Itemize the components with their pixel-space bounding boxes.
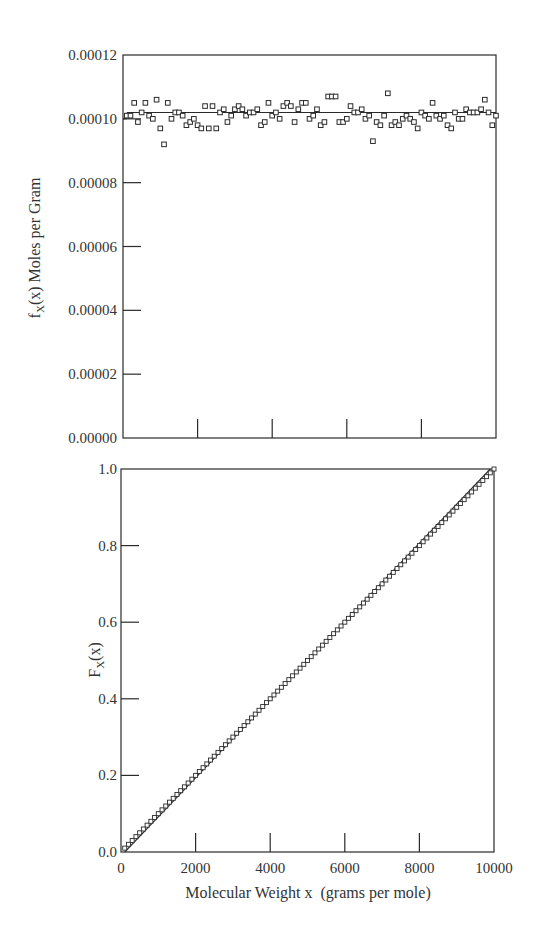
- data-point: [412, 120, 417, 125]
- data-point: [143, 101, 148, 106]
- data-point: [162, 142, 167, 147]
- data-point: [378, 123, 383, 128]
- data-point: [386, 91, 391, 96]
- data-point: [225, 120, 230, 125]
- data-point: [348, 104, 353, 109]
- y-tick-label: 0.00004: [68, 302, 117, 318]
- bottom-y-axis-label: FX(x): [86, 642, 106, 678]
- top-data-points: [124, 91, 498, 147]
- x-tick-label: 10000: [475, 860, 513, 876]
- data-point: [203, 104, 208, 109]
- data-point: [483, 97, 488, 102]
- bottom-cdf-plot: 0.00.20.40.60.81.0 020004000600080001000…: [86, 461, 513, 902]
- y-tick-label: 0.6: [98, 614, 117, 630]
- data-point: [367, 113, 372, 118]
- data-point: [494, 113, 499, 118]
- data-point: [292, 120, 297, 125]
- x-tick-label: 0: [117, 860, 125, 876]
- data-point: [303, 101, 308, 106]
- data-point: [315, 107, 320, 112]
- data-point: [460, 117, 465, 122]
- data-point: [449, 126, 454, 131]
- data-point: [139, 110, 144, 115]
- data-point: [206, 126, 211, 131]
- data-point: [266, 101, 271, 106]
- data-point: [128, 113, 133, 118]
- data-point: [151, 117, 156, 122]
- y-tick-label: 0.4: [98, 691, 117, 707]
- bottom-data-points: [123, 467, 496, 850]
- data-point: [165, 101, 170, 106]
- data-point: [199, 126, 204, 131]
- top-x-axis-ticks: [198, 419, 422, 438]
- x-tick-label: 6000: [330, 860, 360, 876]
- y-tick-label: 0.00010: [68, 111, 117, 127]
- y-tick-label: 0.2: [98, 767, 117, 783]
- data-point: [214, 126, 219, 131]
- data-point: [311, 113, 316, 118]
- data-point: [322, 120, 327, 125]
- data-point: [255, 107, 260, 112]
- data-point: [210, 104, 215, 109]
- data-point: [397, 123, 402, 128]
- y-tick-label: 1.0: [98, 461, 117, 477]
- y-tick-label: 0.00000: [68, 430, 117, 446]
- data-point: [154, 97, 159, 102]
- data-point: [221, 107, 226, 112]
- data-point: [158, 126, 163, 131]
- data-point: [427, 117, 432, 122]
- data-point: [382, 113, 387, 118]
- top-y-axis-label: fX(x) Moles per Gram: [26, 177, 46, 318]
- bottom-y-axis-ticks: 0.00.20.40.60.81.0: [98, 461, 139, 860]
- data-point: [453, 110, 458, 115]
- x-tick-label: 8000: [404, 860, 434, 876]
- y-tick-label: 0.00008: [68, 175, 117, 191]
- data-point: [345, 117, 350, 122]
- data-point: [479, 107, 484, 112]
- top-y-axis-ticks: 0.000000.000020.000040.000060.000080.000…: [68, 47, 141, 446]
- data-point: [333, 94, 338, 99]
- data-point: [132, 101, 137, 106]
- data-point: [136, 120, 141, 125]
- bottom-x-axis-ticks: 0200040006000800010000: [117, 833, 513, 876]
- y-tick-label: 0.8: [98, 538, 117, 554]
- data-point: [492, 467, 496, 471]
- x-tick-label: 2000: [181, 860, 211, 876]
- data-point: [277, 117, 282, 122]
- y-tick-label: 0.0: [98, 844, 117, 860]
- top-density-plot: 0.000000.000020.000040.000060.000080.000…: [26, 47, 498, 446]
- y-tick-label: 0.00002: [68, 366, 117, 382]
- data-point: [229, 113, 234, 118]
- x-tick-label: 4000: [255, 860, 285, 876]
- data-point: [289, 104, 294, 109]
- data-point: [430, 101, 435, 106]
- data-point: [180, 113, 185, 118]
- data-point: [192, 117, 197, 122]
- data-point: [169, 117, 174, 122]
- data-point: [359, 107, 364, 112]
- data-point: [415, 126, 420, 131]
- bottom-x-axis-label: Molecular Weight x (grams per mole): [185, 884, 430, 902]
- data-point: [240, 107, 245, 112]
- data-point: [262, 120, 267, 125]
- data-point: [441, 113, 446, 118]
- y-tick-label: 0.00006: [68, 239, 117, 255]
- data-point: [296, 107, 301, 112]
- data-point: [490, 123, 495, 128]
- data-point: [371, 139, 376, 144]
- y-tick-label: 0.00012: [68, 47, 117, 63]
- figure: 0.000000.000020.000040.000060.000080.000…: [0, 0, 551, 952]
- data-point: [486, 110, 491, 115]
- data-point: [274, 110, 279, 115]
